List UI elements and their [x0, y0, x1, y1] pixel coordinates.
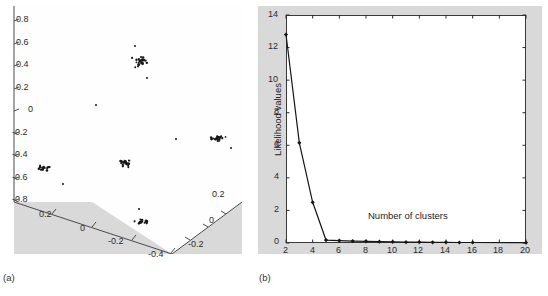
z-tick-label: -0.4 — [12, 150, 28, 159]
data-point-marker — [337, 238, 341, 242]
data-point-marker — [417, 240, 421, 244]
x-tick-label: -0.2 — [108, 237, 124, 246]
z-tick-label: 0 — [28, 105, 33, 114]
z-tick-label: 0.2 — [16, 83, 29, 92]
x-tick-label: 0.2 — [39, 210, 52, 219]
x-tick-label: 16 — [467, 246, 477, 255]
panel-b-lineplot: 14 12 10 8 6 4 2 0 2 4 6 8 10 12 14 16 1… — [258, 6, 542, 254]
x-tick-label: 10 — [387, 246, 397, 255]
x-tick-label: 8 — [363, 246, 368, 255]
z-tick-label: 0.4 — [16, 60, 29, 69]
y-tick-label: 2 — [274, 205, 279, 214]
data-point-marker — [404, 240, 408, 244]
x-tick-label: 14 — [440, 246, 450, 255]
y-tick-label: 0 — [274, 237, 279, 246]
caption-panel-a: (a) — [3, 272, 15, 283]
data-point-marker — [311, 200, 315, 204]
data-point-marker — [324, 238, 328, 242]
y-tick-label: -0.2 — [188, 240, 204, 249]
x-tick-label: 12 — [413, 246, 423, 255]
z-tick-label: 0.6 — [16, 38, 29, 47]
x-tick-label: 4 — [310, 246, 315, 255]
data-point-marker — [297, 141, 301, 145]
data-point-marker — [284, 32, 288, 36]
x-tick-label: 0 — [80, 224, 85, 233]
z-tick-label: -0.6 — [12, 173, 28, 182]
data-point-marker — [351, 239, 355, 243]
y-tick-label: 14 — [268, 10, 278, 19]
y-tick-label: 4 — [274, 172, 279, 181]
z-tick-label: -0.8 — [12, 195, 28, 204]
y-tick-label: 0.2 — [212, 190, 225, 199]
panel-a-scatter3d: 0.8 0.6 0.4 0.2 0 -0.2 -0.4 -0.6 -0.8 0.… — [0, 6, 248, 254]
data-point-marker — [431, 240, 435, 244]
x-tick-label: 20 — [520, 246, 530, 255]
data-point-marker — [471, 240, 475, 244]
x-tick-label: -0.4 — [148, 250, 164, 259]
caption-panel-b: (b) — [259, 272, 271, 283]
z-tick-label: 0.8 — [16, 15, 29, 24]
data-point-marker — [444, 240, 448, 244]
data-point-marker — [377, 240, 381, 244]
data-point-marker — [364, 239, 368, 243]
x-axis-title: Number of clusters — [368, 210, 448, 221]
y-tick-label: 0 — [209, 216, 214, 225]
x-tick-label: 18 — [493, 246, 503, 255]
y-tick-label: 12 — [268, 42, 278, 51]
x-tick-label: 2 — [283, 246, 288, 255]
plot-back-wall — [14, 6, 242, 202]
data-point-marker — [457, 240, 461, 244]
panel-b-tickmarks — [286, 15, 526, 243]
z-tick-label: -0.2 — [12, 128, 28, 137]
y-axis-title: Likelihood values — [272, 70, 283, 170]
x-tick-label: 6 — [336, 246, 341, 255]
figure-container: 0.8 0.6 0.4 0.2 0 -0.2 -0.4 -0.6 -0.8 0.… — [0, 0, 548, 296]
data-point-marker — [391, 240, 395, 244]
